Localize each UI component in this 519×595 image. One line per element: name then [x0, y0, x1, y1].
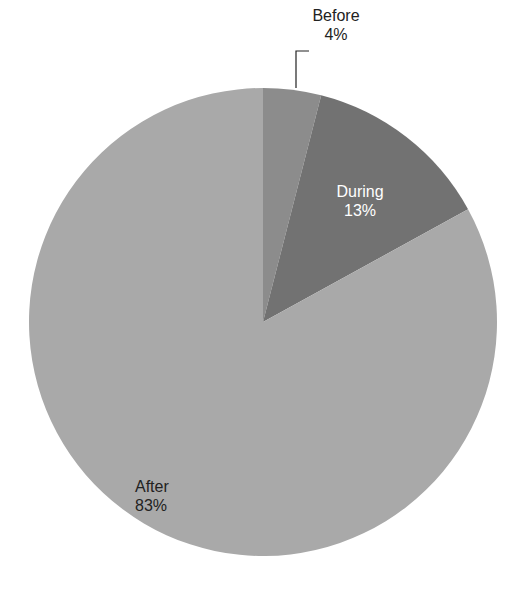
- pie-slices: [29, 88, 497, 556]
- label-after: After 83%: [135, 477, 205, 515]
- label-before-name: Before: [306, 6, 366, 25]
- pie-chart: [0, 0, 519, 595]
- label-before: Before 4%: [306, 6, 366, 44]
- label-before-value: 4%: [306, 25, 366, 44]
- label-after-value: 83%: [135, 496, 205, 515]
- label-during-value: 13%: [325, 201, 395, 220]
- label-during: During 13%: [325, 182, 395, 220]
- label-after-name: After: [135, 477, 205, 496]
- label-during-name: During: [325, 182, 395, 201]
- before-leader-line: [296, 51, 309, 88]
